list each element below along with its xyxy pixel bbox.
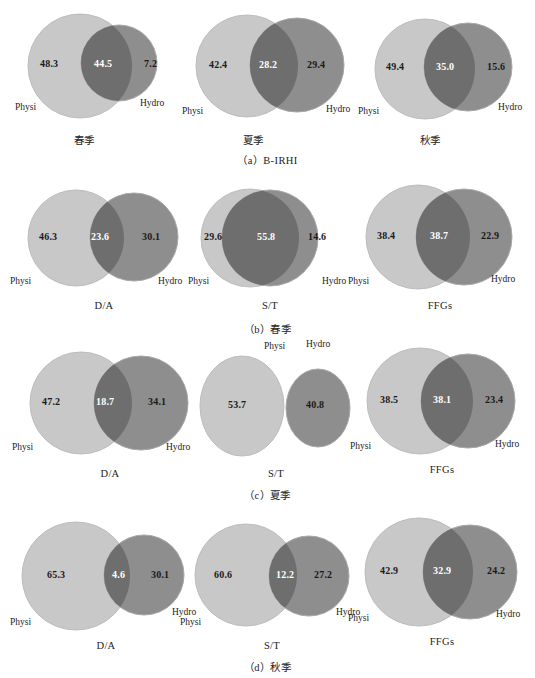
venn-a-2: 42.4 28.2 29.4 Physi Hydro 夏季 [190, 12, 350, 124]
physi-label: Physi [358, 106, 379, 116]
panel-a-caption: （a）B-IRHI [0, 152, 535, 167]
panel-c: 47.2 18.7 34.1 Physi Hydro D/A 53.7 40.8… [0, 335, 535, 505]
diagram-caption: S/T [248, 468, 304, 479]
venn-d-1: 65.3 4.6 30.1 Physi Hydro D/A [20, 521, 190, 633]
value-left: 60.6 [214, 569, 232, 580]
panel-c-caption: （c）夏季 [0, 487, 535, 502]
venn-c-1: 47.2 18.7 34.1 Physi Hydro D/A [26, 351, 191, 461]
value-left: 42.9 [380, 565, 398, 576]
hydro-label: Hydro [166, 442, 190, 452]
panel-d-caption: （d）秋季 [0, 659, 535, 674]
value-right: 40.8 [306, 399, 324, 410]
value-right: 22.9 [481, 230, 499, 241]
value-right: 24.2 [487, 565, 505, 576]
physi-label: Physi [188, 276, 209, 286]
diagram-caption: FFGs [412, 464, 472, 475]
panel-d: 65.3 4.6 30.1 Physi Hydro D/A 60.6 12.2 … [0, 505, 535, 678]
venn-c-2-svg [196, 351, 361, 461]
value-left: 48.3 [40, 58, 58, 69]
value-right: 23.4 [485, 394, 503, 405]
diagram-caption: S/T [242, 300, 298, 311]
value-overlap: 12.2 [276, 569, 294, 580]
hydro-label: Hydro [306, 339, 330, 349]
venn-c-2: 53.7 40.8 Physi Hydro S/T [196, 351, 361, 461]
physi-label: Physi [10, 617, 31, 627]
venn-figure: 48.3 44.5 7.2 Physi Hydro 春季 42.4 28.2 2… [0, 0, 535, 678]
value-overlap: 38.1 [433, 394, 451, 405]
hydro-label: Hydro [322, 276, 346, 286]
hydro-label: Hydro [495, 439, 519, 449]
physi-label: Physi [10, 276, 31, 286]
value-left: 38.5 [380, 394, 398, 405]
value-left: 49.4 [386, 61, 404, 72]
physi-label: Physi [182, 106, 203, 116]
value-left: 38.4 [377, 230, 395, 241]
panel-b-caption: （b）春季 [0, 321, 535, 336]
value-right: 15.6 [487, 61, 505, 72]
value-overlap: 32.9 [433, 565, 451, 576]
value-right: 34.1 [148, 396, 166, 407]
value-right: 30.1 [142, 231, 160, 242]
physi-label: Physi [350, 441, 371, 451]
diagram-caption: S/T [244, 640, 300, 651]
venn-d-3: 42.9 32.9 24.2 Physi Hydro FFGs [360, 517, 532, 631]
physi-label: Physi [15, 102, 36, 112]
venn-c-3: 38.5 38.1 23.4 Physi Hydro FFGs [362, 347, 532, 459]
physi-label: Physi [348, 613, 369, 623]
diagram-caption: 夏季 [223, 132, 283, 147]
panel-a: 48.3 44.5 7.2 Physi Hydro 春季 42.4 28.2 2… [0, 0, 535, 170]
value-left: 46.3 [39, 231, 57, 242]
venn-b-1: 46.3 23.6 30.1 Physi Hydro D/A [24, 188, 184, 293]
value-left: 47.2 [42, 396, 60, 407]
diagram-caption: D/A [82, 468, 138, 479]
physi-label: Physi [264, 341, 285, 351]
physi-label: Physi [180, 617, 201, 627]
value-left: 53.7 [228, 399, 246, 410]
value-overlap: 28.2 [259, 59, 277, 70]
value-right: 14.6 [308, 231, 326, 242]
diagram-caption: FFGs [410, 300, 470, 311]
diagram-caption: 秋季 [400, 132, 460, 147]
hydro-label: Hydro [498, 102, 522, 112]
venn-b-3: 38.4 38.7 22.9 Physi Hydro FFGs [360, 184, 530, 294]
value-overlap: 38.7 [430, 230, 448, 241]
hydro-label: Hydro [491, 274, 515, 284]
venn-a-3: 49.4 35.0 15.6 Physi Hydro 秋季 [368, 18, 528, 126]
diagram-caption: FFGs [412, 636, 472, 647]
hydro-label: Hydro [496, 609, 520, 619]
diagram-caption: D/A [78, 640, 134, 651]
diagram-caption: 春季 [54, 132, 114, 147]
value-overlap: 4.6 [112, 569, 125, 580]
value-overlap: 55.8 [257, 231, 275, 242]
diagram-caption: D/A [76, 300, 132, 311]
value-right: 30.1 [151, 569, 169, 580]
physi-label: Physi [348, 276, 369, 286]
physi-label: Physi [12, 442, 33, 452]
value-overlap: 44.5 [94, 58, 112, 69]
value-overlap: 35.0 [436, 61, 454, 72]
value-overlap: 18.7 [96, 396, 114, 407]
venn-a-1: 48.3 44.5 7.2 Physi Hydro 春季 [18, 14, 178, 124]
hydro-label: Hydro [158, 276, 182, 286]
value-left: 29.6 [204, 231, 222, 242]
value-left: 65.3 [47, 569, 65, 580]
venn-b-2: 29.6 55.8 14.6 Physi Hydro S/T [196, 188, 356, 293]
hydro-label: Hydro [140, 98, 164, 108]
venn-d-2: 60.6 12.2 27.2 Physi Hydro S/T [190, 523, 360, 633]
value-right: 29.4 [307, 59, 325, 70]
panel-b: 46.3 23.6 30.1 Physi Hydro D/A 29.6 55.8… [0, 170, 535, 335]
value-right: 7.2 [144, 58, 157, 69]
hydro-label: Hydro [326, 104, 350, 114]
value-overlap: 23.6 [91, 231, 109, 242]
value-left: 42.4 [209, 59, 227, 70]
value-right: 27.2 [314, 569, 332, 580]
